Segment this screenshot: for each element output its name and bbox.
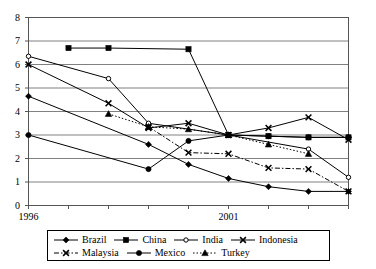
legend-label: Brazil bbox=[82, 235, 106, 245]
chart-legend: BrazilChinaIndiaIndonesia MalaysiaMexico… bbox=[47, 230, 330, 261]
y-axis-tick-label: 4 bbox=[2, 107, 20, 117]
legend-item-indonesia: Indonesia bbox=[230, 234, 298, 246]
data-marker bbox=[26, 54, 30, 58]
data-marker bbox=[136, 250, 141, 255]
y-axis-tick-label: 1 bbox=[2, 177, 20, 187]
y-axis-tick-label: 0 bbox=[2, 201, 20, 211]
data-marker bbox=[186, 161, 192, 167]
data-marker bbox=[346, 175, 350, 179]
data-marker bbox=[306, 135, 311, 140]
legend-swatch-brazil bbox=[53, 234, 79, 246]
data-marker bbox=[266, 165, 272, 171]
legend-label: Indonesia bbox=[259, 235, 298, 245]
legend-row-1: BrazilChinaIndiaIndonesia bbox=[53, 233, 324, 246]
y-axis-tick-label: 8 bbox=[2, 13, 20, 23]
data-marker bbox=[26, 93, 32, 99]
data-marker bbox=[184, 237, 188, 241]
legend-label: Turkey bbox=[221, 248, 250, 258]
y-axis-tick-label: 7 bbox=[2, 36, 20, 46]
legend-item-mexico: Mexico bbox=[126, 247, 186, 259]
data-marker bbox=[106, 45, 111, 50]
x-axis-tick-label: 1996 bbox=[9, 212, 49, 222]
legend-item-india: India bbox=[173, 234, 223, 246]
series-line bbox=[29, 56, 349, 177]
y-axis-tick-label: 6 bbox=[2, 60, 20, 70]
line-chart: 876543210 19962001 BrazilChinaIndiaIndon… bbox=[0, 0, 376, 269]
series-malaysia bbox=[146, 124, 352, 194]
data-marker bbox=[346, 135, 351, 140]
series-line bbox=[109, 114, 309, 154]
legend-swatch-china bbox=[113, 234, 139, 246]
data-marker bbox=[306, 188, 312, 194]
legend-label: Malaysia bbox=[82, 248, 119, 258]
series-brazil bbox=[26, 93, 352, 194]
legend-row-2: MalaysiaMexicoTurkey bbox=[53, 246, 324, 259]
data-marker bbox=[226, 175, 232, 181]
series-turkey bbox=[105, 111, 311, 157]
legend-swatch-turkey bbox=[192, 247, 218, 259]
data-marker bbox=[66, 45, 71, 50]
legend-item-malaysia: Malaysia bbox=[53, 247, 119, 259]
data-marker bbox=[306, 114, 312, 120]
data-marker bbox=[106, 76, 110, 80]
legend-swatch-india bbox=[173, 234, 199, 246]
legend-swatch-mexico bbox=[126, 247, 152, 259]
legend-label: Mexico bbox=[155, 248, 186, 258]
y-axis-tick-label: 2 bbox=[2, 154, 20, 164]
legend-swatch-malaysia bbox=[53, 247, 79, 259]
legend-item-china: China bbox=[113, 234, 166, 246]
legend-label: India bbox=[202, 235, 223, 245]
y-axis-tick-label: 5 bbox=[2, 83, 20, 93]
series-line bbox=[29, 96, 349, 191]
x-axis-tick-label: 2001 bbox=[209, 212, 249, 222]
series-india bbox=[26, 54, 350, 179]
series-line bbox=[69, 48, 349, 137]
series-china bbox=[66, 45, 351, 140]
data-marker bbox=[186, 138, 191, 143]
data-marker bbox=[146, 166, 151, 171]
legend-item-turkey: Turkey bbox=[192, 247, 250, 259]
data-marker bbox=[26, 132, 31, 137]
data-marker bbox=[124, 237, 129, 242]
data-marker bbox=[266, 184, 272, 190]
data-marker bbox=[106, 100, 112, 106]
legend-swatch-indonesia bbox=[230, 234, 256, 246]
plot-canvas bbox=[0, 0, 376, 269]
data-marker bbox=[146, 141, 152, 147]
legend-label: China bbox=[142, 235, 166, 245]
data-marker bbox=[305, 151, 311, 157]
y-axis-tick-label: 3 bbox=[2, 130, 20, 140]
data-marker bbox=[186, 47, 191, 52]
legend-item-brazil: Brazil bbox=[53, 234, 106, 246]
data-marker bbox=[266, 134, 271, 139]
data-marker bbox=[63, 237, 69, 243]
